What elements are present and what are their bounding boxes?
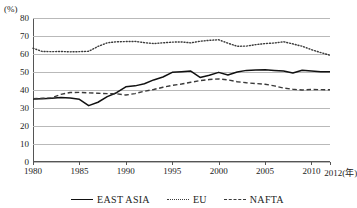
plot-area: 8070605040302010019801985199019952000200… <box>33 18 330 162</box>
legend-label: EAST ASIA <box>97 194 150 205</box>
legend-label: NAFTA <box>250 194 284 205</box>
x-axis-tick-mark <box>311 162 312 165</box>
legend-line-swatch-icon <box>71 196 93 203</box>
x-axis-tick-mark <box>79 162 80 165</box>
x-axis-tick-mark <box>126 162 127 165</box>
series-line-eu <box>33 40 330 55</box>
legend-item-nafta[interactable]: NAFTA <box>224 194 284 205</box>
legend-line-swatch-icon <box>167 196 189 203</box>
chart-legend: EAST ASIAEUNAFTA <box>0 194 355 205</box>
x-axis-tick-mark <box>265 162 266 165</box>
x-axis-tick-label: 1990 <box>117 166 135 176</box>
legend-item-eu[interactable]: EU <box>167 194 207 205</box>
x-axis-tick-label: 2010 <box>302 166 320 176</box>
series-container <box>33 18 330 162</box>
y-axis-tick-label: 60 <box>20 49 29 59</box>
y-gridline <box>33 162 330 163</box>
y-axis-tick-label: 80 <box>20 13 29 23</box>
x-axis-tick-label: 2005 <box>256 166 274 176</box>
y-axis-tick-label: 50 <box>20 67 29 77</box>
series-line-nafta <box>33 79 330 99</box>
y-axis-unit-label: (%) <box>4 4 18 14</box>
x-axis-tick-label: 1980 <box>24 166 42 176</box>
x-axis-tick-mark <box>172 162 173 165</box>
x-axis-tick-label: 2000 <box>210 166 228 176</box>
y-axis-tick-label: 20 <box>20 121 29 131</box>
y-axis-tick-label: 30 <box>20 103 29 113</box>
y-axis-tick-label: 70 <box>20 31 29 41</box>
x-axis-tick-label: 2012(年) <box>324 166 357 179</box>
legend-item-east-asia[interactable]: EAST ASIA <box>71 194 150 205</box>
y-axis-tick-label: 10 <box>20 139 29 149</box>
legend-line-swatch-icon <box>224 196 246 203</box>
x-axis-tick-mark <box>33 162 34 165</box>
x-axis-tick-label: 1985 <box>70 166 88 176</box>
legend-label: EU <box>193 194 207 205</box>
y-axis-tick-label: 40 <box>20 85 29 95</box>
x-axis-tick-label: 1995 <box>163 166 181 176</box>
x-axis-tick-mark <box>330 162 331 165</box>
x-axis-tick-mark <box>219 162 220 165</box>
